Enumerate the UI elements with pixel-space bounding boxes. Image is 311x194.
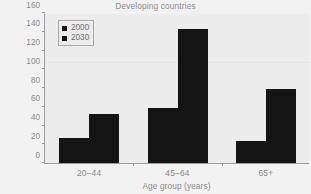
y-axis-tick <box>42 87 45 88</box>
bar <box>236 141 266 164</box>
x-axis-group-label: 20–44 <box>77 168 101 178</box>
legend-item[interactable]: 2000 <box>62 23 89 33</box>
y-axis-tick <box>42 143 45 144</box>
legend-swatch-icon <box>62 26 67 31</box>
bar <box>178 29 208 163</box>
bar <box>89 114 119 163</box>
y-axis-tick <box>42 106 45 107</box>
x-axis-title: Age group (years) <box>44 181 309 191</box>
y-axis-tick-label: 160 <box>26 0 40 9</box>
y-axis-tick-label: 20 <box>31 131 40 140</box>
y-axis-tick-label: 80 <box>31 75 40 84</box>
plot-area: 020406080100120140160 20–4445–6465+ 2000… <box>44 14 309 164</box>
y-axis-tick <box>42 50 45 51</box>
y-axis-tick <box>42 162 45 163</box>
y-axis-tick-label: 0 <box>35 150 40 159</box>
y-axis-tick <box>42 31 45 32</box>
y-axis-tick <box>42 125 45 126</box>
y-axis-tick-label: 40 <box>31 113 40 122</box>
bar <box>266 89 296 163</box>
bar <box>59 138 89 163</box>
bar-chart: Developing countries Estimated numbers o… <box>0 0 311 194</box>
y-axis-tick-label: 120 <box>26 38 40 47</box>
y-axis-tick-label: 60 <box>31 94 40 103</box>
y-axis-title: Estimated numbers of people with diabete… <box>0 14 22 164</box>
legend-label: 2030 <box>71 33 89 43</box>
chart-title: Developing countries <box>0 1 311 11</box>
x-axis-group-label: 65+ <box>258 168 273 178</box>
y-axis-tick-label: 100 <box>26 56 40 65</box>
x-axis-tick <box>133 163 134 166</box>
y-axis-tick-label: 140 <box>26 19 40 28</box>
legend-swatch-icon <box>62 36 67 41</box>
legend: 2000 2030 <box>58 20 94 46</box>
bar <box>148 108 178 163</box>
legend-label: 2000 <box>71 23 89 33</box>
y-axis-tick <box>42 12 45 13</box>
y-axis-tick <box>42 68 45 69</box>
x-axis-tick <box>222 163 223 166</box>
legend-item[interactable]: 2030 <box>62 33 89 43</box>
x-axis-group-label: 45–64 <box>165 168 189 178</box>
